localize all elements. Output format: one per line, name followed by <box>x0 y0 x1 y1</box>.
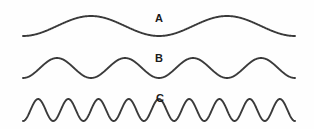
wave-label-b: B <box>155 53 163 64</box>
wave-label-c: C <box>156 93 164 104</box>
wave-label-a: A <box>155 13 163 24</box>
wave-diagram: A B C <box>0 0 314 129</box>
